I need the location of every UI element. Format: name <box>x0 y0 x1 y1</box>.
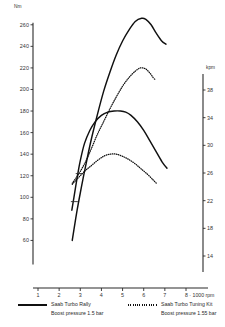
svg-text:30: 30 <box>207 142 213 148</box>
legend-label-rally: Saab Turbo Rally <box>51 300 91 309</box>
legend-swatch-dotted-icon <box>128 304 157 306</box>
svg-text:34: 34 <box>207 115 213 121</box>
svg-text:22: 22 <box>207 198 213 204</box>
svg-text:100: 100 <box>20 194 29 200</box>
legend-swatch-solid-icon <box>18 304 47 306</box>
svg-text:220: 220 <box>20 65 29 71</box>
svg-text:7: 7 <box>163 292 166 298</box>
engine-performance-chart: Nm2602402202001801601401201008060kpm3834… <box>0 0 225 327</box>
legend-entry-tuning-kit: Saab Turbo Tuning Kit Boost pressure 1.5… <box>128 300 216 318</box>
svg-text:18: 18 <box>207 225 213 231</box>
svg-text:4: 4 <box>100 292 103 298</box>
svg-text:2: 2 <box>58 292 61 298</box>
svg-text:260: 260 <box>20 22 29 28</box>
legend-sublabel-tuning-kit: Boost pressure 1.55 bar <box>161 309 216 318</box>
chart-legend: Saab Turbo Rally Boost pressure 1.5 bar … <box>0 300 225 327</box>
svg-text:8 · 1000 rpm: 8 · 1000 rpm <box>185 292 214 298</box>
svg-text:kpm: kpm <box>206 65 215 70</box>
svg-text:3: 3 <box>79 292 82 298</box>
legend-entry-rally: Saab Turbo Rally Boost pressure 1.5 bar <box>18 300 103 318</box>
svg-text:1: 1 <box>36 292 39 298</box>
chart-plot-area: Nm2602402202001801601401201008060kpm3834… <box>0 0 225 300</box>
svg-text:14: 14 <box>207 253 213 259</box>
svg-text:120: 120 <box>20 173 29 179</box>
svg-text:200: 200 <box>20 86 29 92</box>
legend-label-tuning-kit: Saab Turbo Tuning Kit <box>161 300 212 309</box>
svg-text:26: 26 <box>207 170 213 176</box>
svg-text:5: 5 <box>121 292 124 298</box>
svg-text:6: 6 <box>142 292 145 298</box>
svg-text:240: 240 <box>20 43 29 49</box>
svg-text:160: 160 <box>20 130 29 136</box>
svg-text:Nm: Nm <box>14 4 21 9</box>
legend-sublabel-rally: Boost pressure 1.5 bar <box>51 309 103 318</box>
svg-text:60: 60 <box>23 237 29 243</box>
svg-text:80: 80 <box>23 216 29 222</box>
svg-text:38: 38 <box>207 87 213 93</box>
curve-0 <box>72 18 166 240</box>
curve-2 <box>72 68 155 183</box>
svg-text:180: 180 <box>20 108 29 114</box>
svg-text:140: 140 <box>20 151 29 157</box>
